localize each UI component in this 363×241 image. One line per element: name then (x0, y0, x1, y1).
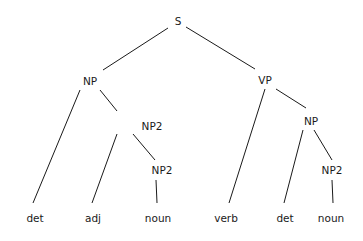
node-np_r: NP (304, 116, 318, 127)
edge-np2a-np2b (133, 134, 155, 160)
edge-s-np (103, 28, 168, 70)
edge-vp-np_r (276, 89, 306, 108)
edge-np2a-adj (92, 134, 117, 203)
node-vp: VP (258, 75, 272, 86)
node-det2: det (276, 213, 293, 224)
node-verb: verb (214, 213, 238, 224)
node-np2b: NP2 (152, 165, 173, 176)
node-s: S (175, 16, 182, 27)
node-np2c: NP2 (322, 165, 343, 176)
edge-vp-verb (229, 89, 265, 203)
node-det1: det (26, 213, 43, 224)
node-np2a: NP2 (142, 121, 163, 132)
edge-np_r-np2c (314, 130, 332, 160)
edge-np2c-noun2 (332, 180, 333, 203)
node-np: NP (83, 76, 97, 87)
edge-np-np2a (100, 90, 117, 111)
edge-s-vp (186, 27, 255, 69)
edge-np-det1 (33, 90, 80, 203)
node-noun2: noun (318, 213, 344, 224)
node-adj: adj (85, 213, 101, 224)
edge-np_r-det2 (284, 130, 303, 203)
node-noun1: noun (145, 213, 171, 224)
edge-np2b-noun1 (156, 180, 157, 203)
